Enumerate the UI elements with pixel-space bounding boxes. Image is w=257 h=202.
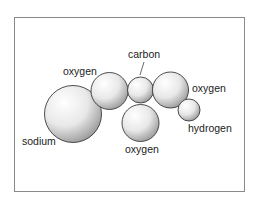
sodium-label: sodium — [22, 135, 56, 147]
oxygen-right-label: oxygen — [192, 82, 226, 94]
hydrogen-atom — [178, 99, 200, 121]
oxygen-left-label: oxygen — [63, 65, 97, 77]
carbon-atom — [128, 77, 154, 103]
carbon-leader-line — [140, 62, 144, 75]
oxygen-bottom-label: oxygen — [125, 143, 159, 155]
oxygen-left-atom — [91, 73, 128, 110]
carbon-label: carbon — [128, 48, 160, 60]
oxygen-bottom-atom — [122, 105, 159, 142]
molecule-diagram: carbon oxygen oxygen hydrogen oxygen sod… — [0, 0, 257, 202]
hydrogen-label: hydrogen — [188, 122, 232, 134]
